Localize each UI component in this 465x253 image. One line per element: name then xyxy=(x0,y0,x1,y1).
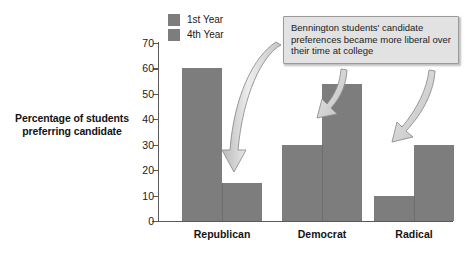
legend-item-1st-year: 1st Year xyxy=(168,13,224,27)
legend-swatch-1st-year xyxy=(168,14,180,26)
y-tick-label: 30 xyxy=(142,139,154,151)
x-axis-label-democrat: Democrat xyxy=(298,228,346,240)
y-axis-title-line-2: preferring candidate xyxy=(8,125,136,138)
legend-label-4th-year: 4th Year xyxy=(187,29,224,41)
y-tick-label: 50 xyxy=(142,88,154,100)
bar-democrat-4th-year xyxy=(322,84,362,221)
bar-group-separator xyxy=(322,145,323,221)
y-tick-label: 70 xyxy=(142,37,154,49)
chart-legend: 1st Year 4th Year xyxy=(168,13,224,43)
x-axis-label-radical: Radical xyxy=(395,228,432,240)
bar-radical-1st-year xyxy=(374,196,414,221)
y-axis-title: Percentage of students preferring candid… xyxy=(8,112,136,138)
legend-label-1st-year: 1st Year xyxy=(187,14,223,26)
x-axis-label-republican: Republican xyxy=(194,228,251,240)
x-axis-line xyxy=(152,221,453,222)
y-axis-title-line-1: Percentage of students xyxy=(8,112,136,125)
bar-group-separator xyxy=(414,196,415,221)
y-tick-label: 0 xyxy=(148,215,154,227)
plot-area: 010203040506070 xyxy=(158,42,453,222)
bar-radical-4th-year xyxy=(414,145,454,221)
y-tick-label: 20 xyxy=(142,164,154,176)
bar-group-separator xyxy=(222,183,223,221)
bar-chart: Percentage of students preferring candid… xyxy=(0,0,465,253)
bar-republican-4th-year xyxy=(222,183,262,221)
bar-democrat-1st-year xyxy=(282,145,322,221)
y-tick-label: 40 xyxy=(142,113,154,125)
bar-republican-1st-year xyxy=(182,68,222,221)
legend-item-4th-year: 4th Year xyxy=(168,28,224,42)
y-tick-label: 60 xyxy=(142,62,154,74)
annotation-callout: Bennington students' candidate preferenc… xyxy=(283,16,459,64)
legend-swatch-4th-year xyxy=(168,29,180,41)
y-axis-line xyxy=(158,42,159,222)
y-tick-label: 10 xyxy=(142,190,154,202)
